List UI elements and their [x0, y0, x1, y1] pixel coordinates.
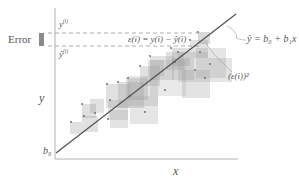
- data-point: [94, 112, 96, 114]
- squared-error-box: [90, 99, 104, 113]
- squared-error-boxes: [70, 32, 232, 134]
- diagram-canvas: [0, 0, 299, 186]
- data-point: [164, 89, 166, 91]
- data-point: [199, 51, 201, 53]
- y-axis-label: y: [39, 92, 44, 104]
- data-point: [109, 99, 111, 101]
- error-bar-icon: [39, 33, 44, 46]
- regression-equation: ŷ = b₀ + b₁x: [247, 34, 296, 44]
- y-i-superscript: (i): [63, 18, 68, 24]
- regression-diagram: Error y(i) ŷ(i) ε(i) = y(i) − ŷ(i) ŷ = b…: [0, 0, 299, 186]
- data-point: [209, 63, 211, 65]
- data-point: [204, 77, 206, 79]
- data-point: [189, 39, 191, 41]
- squared-error-label: (ε(i))²: [228, 72, 249, 81]
- squared-error-box: [82, 116, 98, 132]
- squared-error-box: [110, 110, 128, 128]
- data-point: [194, 69, 196, 71]
- residual-formula: ε(i) = y(i) − ŷ(i): [128, 35, 186, 44]
- data-point: [127, 77, 129, 79]
- x-axis-label: x: [173, 165, 178, 177]
- error-label: Error: [8, 34, 31, 45]
- yhat-i-label: ŷ(i): [59, 49, 68, 59]
- data-point: [144, 111, 146, 113]
- squared-error-box: [70, 122, 82, 134]
- data-point: [107, 118, 109, 120]
- data-point: [149, 55, 151, 57]
- data-point: [170, 47, 172, 49]
- yhat-i-superscript: (i): [63, 48, 68, 54]
- regression-callout-curve: [227, 26, 246, 40]
- data-point: [83, 115, 85, 117]
- data-point: [117, 81, 119, 83]
- y-i-label: y(i): [59, 19, 68, 29]
- data-point: [70, 121, 72, 123]
- intercept-label: b₀: [43, 146, 51, 156]
- data-point: [177, 51, 179, 53]
- data-point: [139, 65, 141, 67]
- data-point: [106, 83, 108, 85]
- data-point: [81, 103, 83, 105]
